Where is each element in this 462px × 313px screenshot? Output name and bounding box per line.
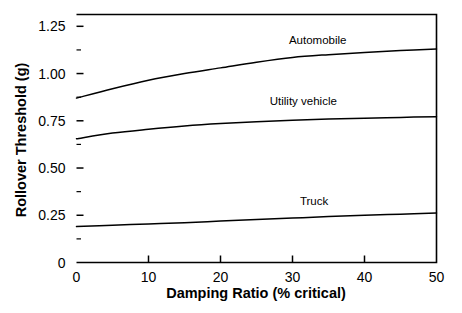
rollover-threshold-line-chart: 00.250.500.751.001.25 01020304050 Automo… [0,0,462,313]
chart-background [0,0,462,313]
x-tick-label: 10 [141,269,157,285]
y-tick-label: 1.00 [38,66,65,82]
x-tick-label: 0 [73,269,81,285]
x-tick-label: 30 [285,269,301,285]
y-tick-label: 0.25 [38,207,65,223]
y-tick-label: 1.25 [38,18,65,34]
y-axis-title: Rollover Threshold (g) [13,62,29,217]
y-tick-label: 0 [58,255,66,271]
x-axis-title: Damping Ratio (% critical) [166,285,346,301]
x-tick-label: 40 [357,269,373,285]
y-tick-label: 0.50 [38,160,65,176]
chart-figure: 00.250.500.751.001.25 01020304050 Automo… [0,0,462,313]
y-tick-label: 0.75 [38,113,65,129]
x-tick-label: 50 [429,269,445,285]
series-label-utility-vehicle: Utility vehicle [270,95,337,107]
x-tick-label: 20 [213,269,229,285]
series-label-truck: Truck [300,195,329,207]
series-label-automobile: Automobile [289,34,347,46]
